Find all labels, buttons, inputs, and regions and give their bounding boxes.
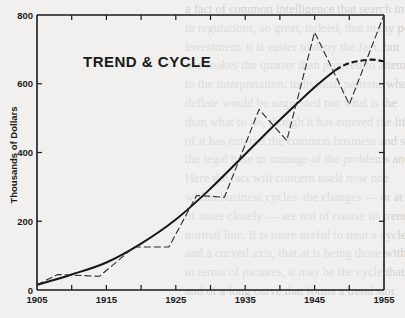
x-tick-label: 1905: [26, 294, 48, 305]
y-tick-label: 0: [28, 285, 33, 296]
x-tick-label: 1915: [96, 294, 118, 305]
y-tick-label: 600: [17, 78, 33, 89]
x-tick-label: 1925: [165, 294, 187, 305]
x-tick-label: 1945: [304, 294, 326, 305]
y-tick-label: 800: [17, 10, 33, 21]
y-tick-labels: 0200400600800: [17, 10, 33, 296]
x-tick-labels: 190519151925193519451955: [26, 294, 395, 305]
chart-title: TREND & CYCLE: [83, 53, 211, 70]
x-tick-label: 1955: [373, 294, 395, 305]
trend-cycle-chart: 190519151925193519451955 0200400600800 T…: [0, 0, 405, 318]
y-axis-label: Thousands of Dollars: [8, 106, 19, 203]
y-tick-label: 200: [17, 216, 33, 227]
x-tick-label: 1935: [235, 294, 257, 305]
y-tick-label: 400: [17, 147, 33, 158]
